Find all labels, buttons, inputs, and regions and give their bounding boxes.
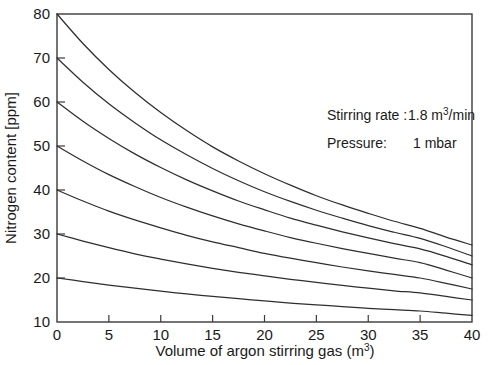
y-axis-title: Nitrogen content [ppm] — [2, 92, 19, 244]
x-axis-ticks — [109, 315, 420, 322]
annotation-pressure-value: 1 mbar — [413, 135, 457, 151]
y-tick-label-20: 20 — [33, 269, 50, 286]
x-axis-title-base: Volume of argon stirring gas (m — [156, 342, 364, 359]
annotation-stirring-rate-label: Stirring rate : — [327, 107, 407, 123]
annotation-pressure-label: Pressure: — [327, 135, 387, 151]
x-tick-label-30: 30 — [360, 326, 377, 343]
curve-initial-70ppm — [57, 58, 472, 256]
x-tick-label-15: 15 — [204, 326, 221, 343]
x-tick-label-40: 40 — [464, 326, 481, 343]
y-tick-label-10: 10 — [33, 313, 50, 330]
curve-initial-40ppm — [57, 190, 472, 289]
x-tick-label-25: 25 — [308, 326, 325, 343]
annotation-stirring-rate-tail: /min — [449, 107, 475, 123]
y-axis-tick-labels: 1020304050607080 — [33, 5, 50, 330]
x-tick-label-10: 10 — [152, 326, 169, 343]
chart-figure: 0510152025303540 1020304050607080 Volume… — [0, 0, 489, 365]
annotation-stirring-rate-value: 1.8 m — [408, 107, 443, 123]
y-tick-label-30: 30 — [33, 225, 50, 242]
x-axis-tick-labels: 0510152025303540 — [53, 326, 481, 343]
x-axis-title: Volume of argon stirring gas (m3) — [156, 342, 375, 359]
nitrogen-content-line-chart: 0510152025303540 1020304050607080 Volume… — [0, 0, 489, 365]
x-tick-label-5: 5 — [105, 326, 113, 343]
x-tick-label-35: 35 — [412, 326, 429, 343]
chart-annotation-block: Stirring rate :1.8 m3/min Pressure:1 mba… — [327, 106, 475, 151]
annotation-pressure: Pressure:1 mbar — [327, 135, 457, 151]
y-tick-label-70: 70 — [33, 49, 50, 66]
annotation-stirring-rate: Stirring rate :1.8 m3/min — [327, 106, 475, 123]
y-tick-label-50: 50 — [33, 137, 50, 154]
curve-initial-20ppm — [57, 278, 472, 315]
x-axis-title-tail: ) — [370, 342, 375, 359]
x-tick-label-0: 0 — [53, 326, 61, 343]
curve-initial-50ppm — [57, 146, 472, 278]
curve-initial-60ppm — [57, 102, 472, 265]
y-tick-label-80: 80 — [33, 5, 50, 22]
x-tick-label-20: 20 — [256, 326, 273, 343]
y-axis-ticks — [57, 58, 65, 278]
data-curves — [57, 14, 472, 315]
curve-initial-30ppm — [57, 234, 472, 300]
y-tick-label-60: 60 — [33, 93, 50, 110]
y-tick-label-40: 40 — [33, 181, 50, 198]
